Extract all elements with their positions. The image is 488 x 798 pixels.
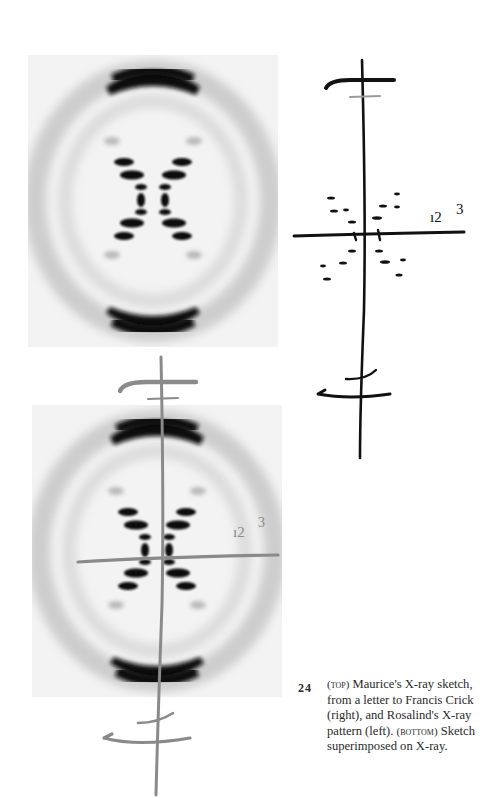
caption-label-bottom: (bottom): [397, 725, 438, 737]
xray-photo: [28, 55, 278, 347]
figure-caption: (top) Maurice's X-ray sketch, from a let…: [327, 677, 487, 755]
caption-label-top: (top): [327, 678, 349, 690]
svg-text:ı2: ı2: [430, 209, 442, 225]
sketch-drawing: ı2 3: [280, 50, 480, 470]
svg-text:3: 3: [456, 201, 464, 217]
svg-text:ı2: ı2: [233, 524, 245, 540]
overlay-sketch: ı2 3: [28, 355, 288, 798]
figure-number: 24: [298, 681, 312, 696]
svg-text:3: 3: [258, 515, 265, 530]
